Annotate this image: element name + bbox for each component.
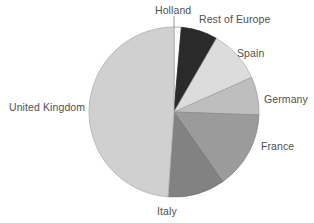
pie-label-france: France <box>261 140 294 152</box>
pie-slice-united-kingdom <box>89 27 174 197</box>
pie-label-germany: Germany <box>264 93 308 105</box>
pie-label-rest-of-europe: Rest of Europe <box>199 13 270 25</box>
pie-slice-group <box>89 27 259 197</box>
pie-label-italy: Italy <box>157 205 177 217</box>
pie-chart: Holland Rest of Europe Spain Germany Fra… <box>0 0 314 223</box>
pie-label-holland: Holland <box>155 4 191 16</box>
pie-label-spain: Spain <box>237 47 264 59</box>
pie-label-united-kingdom: United Kingdom <box>9 101 85 113</box>
